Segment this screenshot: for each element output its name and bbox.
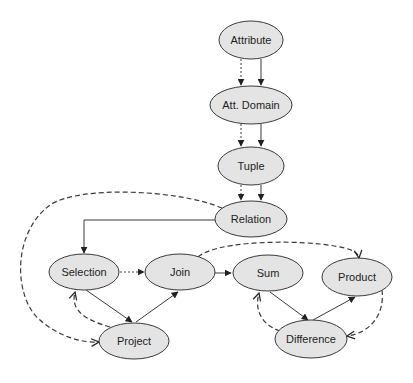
node-selection[interactable]: Selection bbox=[49, 254, 119, 290]
node-relation[interactable]: Relation bbox=[215, 201, 287, 237]
node-join[interactable]: Join bbox=[145, 254, 215, 290]
node-label: Product bbox=[338, 271, 376, 283]
node-product[interactable]: Product bbox=[322, 258, 392, 296]
edge-selection-to-project bbox=[86, 290, 132, 322]
edge-product-to-difference bbox=[347, 290, 382, 336]
node-label: Selection bbox=[61, 266, 106, 278]
edge-relation-to-selection bbox=[84, 220, 215, 253]
edges bbox=[21, 59, 383, 342]
node-label: Join bbox=[170, 266, 190, 278]
node-sum[interactable]: Sum bbox=[233, 255, 303, 291]
edge-sum-to-difference bbox=[270, 292, 308, 320]
node-difference[interactable]: Difference bbox=[275, 320, 347, 358]
edge-project-to-selection bbox=[74, 292, 110, 327]
node-label: Sum bbox=[257, 267, 280, 279]
edge-project-to-join bbox=[136, 292, 178, 322]
relational-algebra-diagram: Attribute Att. Domain Tuple Relation Sel… bbox=[0, 0, 413, 383]
node-project[interactable]: Project bbox=[99, 323, 169, 359]
edge-difference-to-product bbox=[313, 297, 355, 320]
node-tuple[interactable]: Tuple bbox=[218, 147, 284, 185]
nodes: Attribute Att. Domain Tuple Relation Sel… bbox=[49, 21, 392, 359]
node-label: Attribute bbox=[231, 34, 272, 46]
node-attribute[interactable]: Attribute bbox=[219, 21, 283, 59]
node-label: Relation bbox=[231, 213, 271, 225]
node-att-domain[interactable]: Att. Domain bbox=[210, 86, 292, 124]
node-label: Project bbox=[117, 335, 151, 347]
node-label: Att. Domain bbox=[222, 99, 279, 111]
node-label: Difference bbox=[286, 333, 336, 345]
edge-difference-to-sum bbox=[258, 293, 280, 331]
node-label: Tuple bbox=[237, 160, 264, 172]
